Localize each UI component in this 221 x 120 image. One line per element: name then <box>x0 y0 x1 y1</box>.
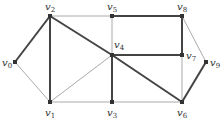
edge-v0-v1 <box>15 62 50 102</box>
edge-v1-v4 <box>50 55 112 102</box>
node-v6 <box>180 100 184 104</box>
edge-v0-v2 <box>15 16 50 62</box>
edge-v9-v6 <box>182 62 206 102</box>
node-label-v3: v3 <box>107 107 117 120</box>
node-label-v7: v7 <box>186 50 196 63</box>
node-v9 <box>204 60 208 64</box>
node-label-v8: v8 <box>177 1 187 14</box>
edges-layer <box>15 16 206 102</box>
node-label-v1: v1 <box>45 107 55 120</box>
node-label-v4: v4 <box>114 39 125 52</box>
edge-v2-v4 <box>50 16 112 55</box>
node-label-v5: v5 <box>107 1 117 14</box>
edge-v4-v6 <box>112 55 182 102</box>
node-label-v6: v6 <box>177 107 188 120</box>
node-v4 <box>110 53 114 57</box>
node-v2 <box>48 14 52 18</box>
node-label-v0: v0 <box>2 57 12 70</box>
node-label-v2: v2 <box>45 1 55 14</box>
node-label-v9: v9 <box>210 57 220 70</box>
node-v3 <box>110 100 114 104</box>
node-v0 <box>13 60 17 64</box>
node-v8 <box>180 14 184 18</box>
graph-diagram: v0v1v2v3v4v5v6v7v8v9 <box>0 0 221 120</box>
node-v7 <box>180 53 184 57</box>
node-v5 <box>110 14 114 18</box>
node-v1 <box>48 100 52 104</box>
